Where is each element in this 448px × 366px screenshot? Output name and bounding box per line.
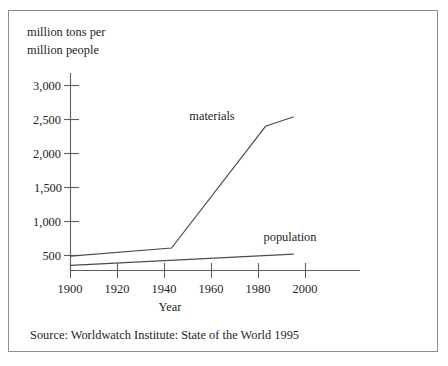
- y-tick-label-500: 500: [42, 249, 61, 263]
- line-chart: million tons per million people 3,000 2,…: [0, 0, 448, 366]
- x-tick-label-1960: 1960: [199, 282, 224, 296]
- y-tick-label-3000: 3,000: [33, 79, 61, 93]
- series-line-materials: [71, 117, 294, 256]
- y-axis-title-line-1: million tons per: [27, 25, 106, 39]
- y-tick-label-1000: 1,000: [33, 215, 61, 229]
- y-tick-label-2500: 2,500: [33, 113, 61, 127]
- series-line-population: [71, 254, 294, 265]
- y-axis-title-line-2: million people: [27, 43, 99, 57]
- source-note: Source: Worldwatch Institute: State of t…: [30, 328, 299, 342]
- series-label-population: population: [264, 230, 317, 244]
- x-tick-label-1900: 1900: [58, 282, 83, 296]
- figure-container: million tons per million people 3,000 2,…: [0, 0, 448, 366]
- y-tick-label-1500: 1,500: [34, 181, 62, 195]
- x-tick-label-2000: 2000: [293, 282, 318, 296]
- y-axis-ticks: [64, 86, 79, 256]
- x-tick-label-1920: 1920: [105, 282, 130, 296]
- y-tick-label-2000: 2,000: [33, 147, 61, 161]
- series-label-materials: materials: [189, 109, 235, 123]
- x-tick-label-1940: 1940: [152, 282, 177, 296]
- x-tick-label-1980: 1980: [246, 282, 271, 296]
- chart-area: million tons per million people 3,000 2,…: [0, 0, 448, 366]
- x-axis-title: Year: [159, 300, 183, 314]
